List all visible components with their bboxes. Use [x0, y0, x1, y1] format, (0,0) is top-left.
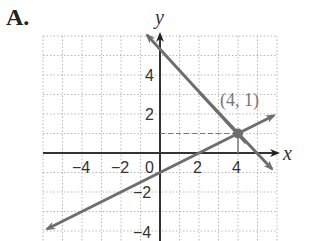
- y-tick: −4: [133, 224, 151, 241]
- point-label: (4, 1): [220, 90, 259, 111]
- y-tick: 2: [145, 106, 154, 123]
- y-axis-label: y: [153, 6, 164, 29]
- y-tick: −2: [133, 184, 151, 201]
- x-tick: 4: [232, 159, 241, 176]
- x-tick: −2: [111, 159, 129, 176]
- coordinate-plane: −4 −2 0 2 4 4 2 −2 −4 y x (4, 1): [0, 0, 310, 241]
- x-tick: −4: [72, 159, 90, 176]
- y-tick: 4: [145, 67, 154, 84]
- x-tick: 0: [145, 159, 154, 176]
- line-2: [160, 116, 274, 173]
- intersection-point: [233, 129, 243, 139]
- x-tick: 2: [193, 159, 202, 176]
- x-axis-label: x: [282, 142, 292, 164]
